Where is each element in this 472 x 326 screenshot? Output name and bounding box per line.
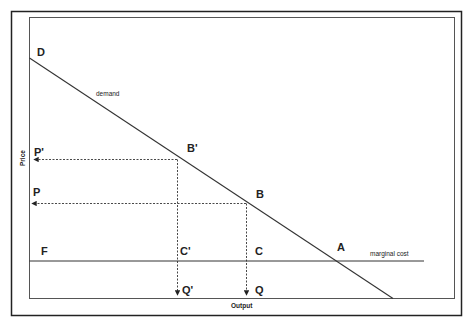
- label-q-prime: Q': [182, 284, 194, 296]
- label-c-prime: C': [180, 245, 191, 257]
- label-f: F: [41, 245, 48, 257]
- outer-frame: [12, 12, 462, 316]
- label-d: D: [37, 46, 45, 58]
- label-b-prime: B': [187, 142, 198, 154]
- x-axis-label: Output: [231, 302, 253, 310]
- label-b: B: [256, 188, 264, 200]
- y-axis-label: Price: [19, 150, 26, 166]
- label-p: P: [33, 186, 40, 198]
- label-marginal-cost: marginal cost: [370, 250, 409, 258]
- label-p-prime: P': [34, 146, 44, 158]
- label-demand: demand: [96, 90, 120, 97]
- label-c: C: [255, 245, 263, 257]
- demand-curve: [30, 58, 394, 299]
- label-a: A: [337, 241, 345, 253]
- label-q: Q: [255, 284, 264, 296]
- economics-diagram: D demand B' P' B P F C' C A marginal cos…: [0, 0, 472, 326]
